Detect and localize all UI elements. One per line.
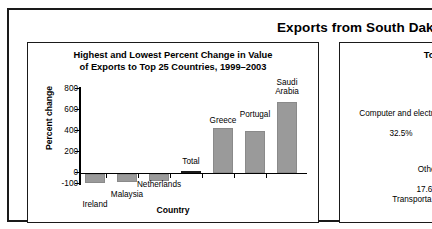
chart-plot-area: Percent change 800 600 400 200 0 -100 xyxy=(28,43,318,222)
pie-label-transportation-name: Transporta xyxy=(392,195,431,204)
industry-panel-title: Top Industry Grou xyxy=(340,50,432,60)
y-tickmark-600 xyxy=(75,109,79,110)
y-tick-200: 200 xyxy=(64,148,78,156)
bar-label-netherlands: Netherlands xyxy=(126,180,192,189)
y-axis-tick-labels: 800 600 400 200 0 -100 xyxy=(50,43,78,222)
y-axis-line xyxy=(79,87,81,185)
bar-greece xyxy=(213,128,233,173)
y-tickmark-800 xyxy=(75,88,79,89)
poster-frame: Exports from South Dakota Highest and Lo… xyxy=(7,8,432,222)
x-tickmark-1 xyxy=(106,174,107,178)
x-tickmark-5 xyxy=(234,174,235,178)
bar-portugal xyxy=(245,131,265,173)
y-tick-0: 0 xyxy=(73,169,78,177)
x-axis-line xyxy=(79,173,307,175)
bar-label-total: Total xyxy=(169,157,213,166)
y-tick-800: 800 xyxy=(64,85,78,93)
pie-label-computer-electronics: Computer and electron 32.5% xyxy=(331,99,432,139)
pie-label-other-name: Other xyxy=(418,165,432,174)
bar-ireland xyxy=(85,174,105,183)
x-tickmark-2 xyxy=(138,174,139,178)
pie-label-computer-electronics-name: Computer and electron xyxy=(359,109,432,118)
x-tickmark-4 xyxy=(202,174,203,178)
x-tickmark-6 xyxy=(266,174,267,178)
y-tick-600: 600 xyxy=(64,106,78,114)
pie-label-transportation: Transporta xyxy=(362,185,432,205)
x-axis-title: Country xyxy=(28,205,318,215)
bar-total xyxy=(181,171,201,173)
y-tick-neg100: -100 xyxy=(62,180,78,188)
y-tickmark-200 xyxy=(75,151,79,152)
x-tickmark-3 xyxy=(170,174,171,178)
page-title: Exports from South Dakota xyxy=(277,20,432,35)
industry-groups-panel: Top Industry Grou Computer and electron … xyxy=(339,42,432,223)
bar-label-portugal: Portugal xyxy=(227,110,283,119)
y-tickmark-400 xyxy=(75,130,79,131)
y-axis-lower-stub xyxy=(79,172,81,184)
y-tick-400: 400 xyxy=(64,127,78,135)
pie-label-computer-electronics-value: 32.5% xyxy=(389,129,412,138)
bar-chart-panel: Highest and Lowest Percent Change in Val… xyxy=(27,42,319,223)
bar-label-malaysia: Malaysia xyxy=(96,190,158,199)
bar-label-saudi-arabia: Saudi Arabia xyxy=(269,78,305,96)
